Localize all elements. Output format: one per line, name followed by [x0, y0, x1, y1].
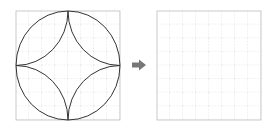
right-grid-lines: [157, 11, 261, 120]
arrow-right-icon: [132, 60, 146, 71]
diagram-canvas: [0, 0, 272, 129]
right-grid-panel: [157, 11, 261, 120]
left-grid-panel: [16, 11, 120, 120]
left-grid-lines: [16, 11, 120, 120]
